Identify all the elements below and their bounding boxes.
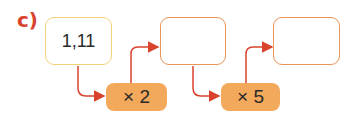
start-value: 1,11 (62, 31, 96, 52)
operation-label: × 5 (237, 86, 264, 108)
start-value-box: 1,11 (45, 17, 112, 65)
operation-label: × 2 (123, 86, 150, 108)
operation-multiply-5: × 5 (221, 83, 280, 111)
operation-multiply-2: × 2 (106, 83, 167, 111)
intermediate-answer-box[interactable] (160, 17, 226, 65)
result-answer-box[interactable] (273, 17, 340, 65)
